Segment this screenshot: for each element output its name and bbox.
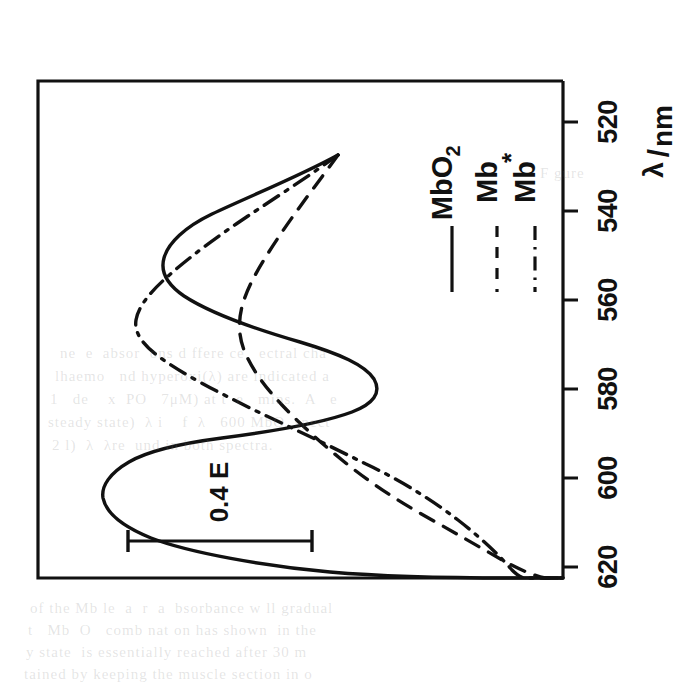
- scale-bar-label: 0.4 E: [204, 462, 234, 523]
- plot-frame: [38, 81, 563, 578]
- background-text-line-10: tained by keeping the muscle section in …: [24, 666, 313, 683]
- axis-tick-labels: 520 540 560 580 600 620: [593, 100, 623, 589]
- axis-title-lambda: λ: [638, 162, 669, 178]
- tick-label-540: 540: [593, 189, 623, 233]
- tick-label-560: 560: [593, 278, 623, 322]
- legend-label-mbo2: MbO: [426, 156, 458, 220]
- tick-label-600: 600: [593, 456, 623, 500]
- legend-entry-mbo2: MbO 2: [426, 145, 464, 292]
- axis-title-unit: nm: [647, 105, 678, 147]
- axis-ticks: [563, 122, 578, 567]
- frame-outline: [38, 81, 563, 578]
- legend-entry-mb: Mb: [471, 161, 503, 292]
- curve-mb-star: [136, 155, 563, 578]
- legend-label-mb: Mb: [471, 161, 503, 203]
- legend-star-mb-star: *: [496, 152, 526, 163]
- tick-label-620: 620: [593, 545, 623, 589]
- legend: MbO 2 Mb Mb *: [426, 145, 541, 292]
- tick-label-520: 520: [593, 100, 623, 144]
- axis-title-group: λ / nm: [638, 105, 678, 178]
- curve-mb: [240, 155, 564, 578]
- legend-label-mb-star: Mb: [509, 161, 541, 203]
- axis-title-slash: /: [642, 148, 675, 157]
- legend-sub-mbo2: 2: [442, 145, 464, 156]
- tick-label-580: 580: [593, 367, 623, 411]
